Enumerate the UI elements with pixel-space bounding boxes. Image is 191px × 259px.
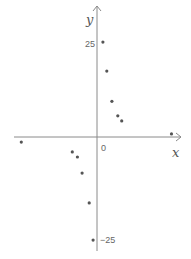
x-axis-label: x xyxy=(172,145,180,160)
data-point xyxy=(101,41,104,44)
data-point xyxy=(120,119,123,122)
data-point xyxy=(88,201,91,204)
data-point xyxy=(20,141,23,144)
data-point xyxy=(71,150,74,153)
data-point xyxy=(116,114,119,117)
data-point xyxy=(76,155,79,158)
y-tick-neg-25: −25 xyxy=(100,235,115,245)
y-tick-25: 25 xyxy=(85,39,95,49)
data-point xyxy=(170,132,173,135)
y-axis-label: y xyxy=(85,12,94,27)
origin-label: 0 xyxy=(101,143,106,153)
data-point xyxy=(110,100,113,103)
data-point xyxy=(92,239,95,242)
data-points xyxy=(20,41,173,242)
scatter-plot: y x 0 25 −25 xyxy=(0,0,191,259)
data-point xyxy=(105,70,108,73)
data-point xyxy=(81,172,84,175)
